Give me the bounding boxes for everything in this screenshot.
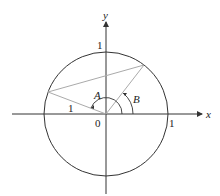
unit-circle-diagram: y x 1 1 0 1 A B [0, 0, 220, 196]
y-tick-label: 1 [97, 39, 103, 51]
y-axis-label: y [102, 9, 108, 21]
angle-b-label: B [133, 93, 140, 105]
chord [48, 65, 144, 92]
radius-label: 1 [68, 102, 74, 114]
x-tick-label: 1 [169, 117, 175, 129]
angle-a-label: A [93, 89, 101, 101]
angle-b-arc [123, 93, 133, 114]
origin-label: 0 [95, 117, 101, 129]
x-axis-label: x [205, 108, 211, 120]
radius-to-point-b [106, 65, 144, 114]
